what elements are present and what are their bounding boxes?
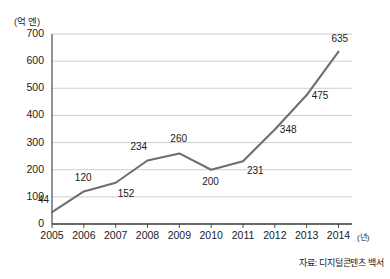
data-point-label: 152 <box>118 188 135 199</box>
y-axis-tick-label: 500 <box>16 82 44 93</box>
x-axis-tick-label: 2014 <box>319 230 359 241</box>
chart-figure: (억 엔) 0100200300400500600700 20052006200… <box>0 0 390 279</box>
data-point-label: 475 <box>312 90 329 101</box>
data-point-label: 231 <box>247 165 264 176</box>
y-axis-tick-label: 200 <box>16 164 44 175</box>
y-axis-tick-label: 700 <box>16 28 44 39</box>
gridlines-group <box>52 34 352 197</box>
source-note: 자료: 디지털콘텐츠 백서 <box>299 256 384 269</box>
data-point-label: 260 <box>170 133 187 144</box>
data-point-label: 348 <box>280 124 297 135</box>
data-point-label: 120 <box>75 172 92 183</box>
x-axis-unit-label: (년) <box>357 231 369 242</box>
y-axis-tick-label: 0 <box>16 218 44 229</box>
data-point-label: 635 <box>332 33 349 44</box>
data-point-label: 200 <box>202 176 219 187</box>
data-point-label: 234 <box>131 141 148 152</box>
y-axis-tick-label: 600 <box>16 55 44 66</box>
data-point-label: 44 <box>38 194 49 205</box>
y-axis-tick-label: 300 <box>16 137 44 148</box>
y-axis-tick-label: 400 <box>16 109 44 120</box>
